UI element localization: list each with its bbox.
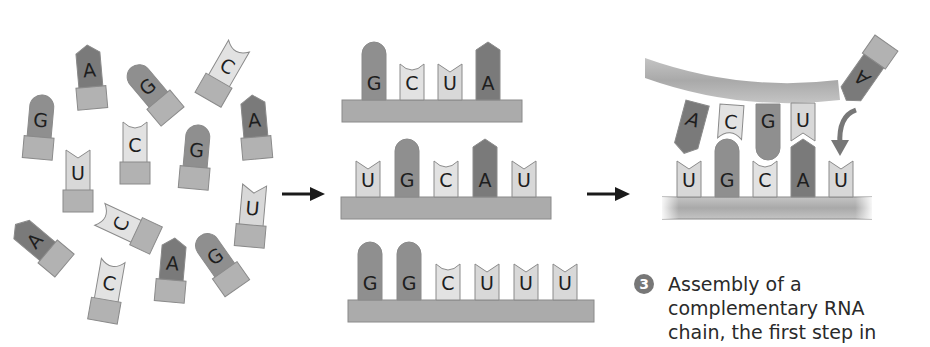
template-strand-top — [645, 58, 840, 103]
paired-base-U: U — [791, 103, 815, 141]
nucleotide-A: A — [6, 213, 74, 277]
svg-text:C: C — [405, 72, 418, 94]
svg-text:U: U — [796, 109, 810, 131]
rna-strands-panel: GCUAUGCAUGGCUUU — [341, 42, 594, 322]
svg-text:A: A — [482, 72, 495, 94]
base-U: U — [475, 264, 499, 300]
curved-arrow-icon — [831, 110, 856, 156]
caption-line-2: complementary RNA — [668, 296, 928, 320]
step-caption: 3 Assembly of a complementary RNA chain,… — [668, 272, 928, 344]
base-G: G — [395, 139, 419, 197]
base-U: U — [438, 64, 462, 100]
svg-text:U: U — [517, 169, 531, 191]
svg-text:C: C — [723, 110, 738, 133]
nucleotide-C: C — [88, 258, 128, 324]
paired-base-A: A — [673, 100, 710, 156]
svg-text:C: C — [128, 134, 141, 156]
svg-text:G: G — [32, 108, 49, 131]
svg-text:A: A — [82, 59, 97, 82]
rna-strand: UGCAU — [341, 139, 551, 219]
base-G: G — [358, 242, 382, 300]
base-U: U — [512, 161, 536, 197]
base-U: U — [514, 264, 538, 300]
base-C: C — [434, 161, 458, 197]
svg-text:A: A — [247, 109, 262, 132]
template-base-U: U — [677, 161, 701, 197]
svg-text:U: U — [245, 196, 261, 219]
template-base-A: A — [791, 139, 815, 197]
incoming-nucleotide-A: A — [835, 35, 898, 108]
base-C: C — [400, 64, 424, 100]
paired-base-C: C — [718, 104, 744, 140]
nucleotide-U: U — [234, 184, 269, 248]
template-base-U: U — [829, 161, 853, 197]
svg-text:A: A — [479, 169, 492, 191]
base-G: G — [362, 42, 386, 100]
arrow-right-icon — [587, 187, 630, 201]
svg-text:G: G — [402, 272, 417, 294]
svg-text:U: U — [480, 272, 494, 294]
svg-text:U: U — [519, 272, 533, 294]
svg-text:G: G — [400, 169, 415, 191]
svg-text:C: C — [758, 169, 771, 191]
svg-text:U: U — [834, 169, 848, 191]
nucleotide-C: C — [195, 39, 252, 108]
svg-text:U: U — [558, 272, 572, 294]
nucleotide-C: C — [120, 122, 150, 184]
rna-strand: GCUA — [342, 42, 522, 122]
base-C: C — [436, 264, 460, 300]
template-base-C: C — [753, 161, 777, 197]
arrow-right-icon — [282, 187, 325, 201]
template-base-G: G — [715, 139, 739, 197]
svg-text:U: U — [682, 169, 696, 191]
svg-text:U: U — [443, 72, 457, 94]
nucleotide-U: U — [63, 150, 93, 212]
nucleotide-C: C — [93, 201, 162, 254]
nucleotide-G: G — [178, 124, 213, 190]
svg-text:A: A — [165, 252, 180, 275]
step-number-badge: 3 — [634, 274, 654, 294]
svg-text:A: A — [797, 169, 810, 191]
caption-line-1: Assembly of a — [668, 272, 928, 296]
base-A: A — [473, 139, 497, 197]
rna-strand: GGCUUU — [348, 242, 594, 322]
nucleotide-G: G — [22, 94, 57, 160]
caption-line-3: chain, the first step in — [668, 320, 928, 344]
svg-text:G: G — [188, 138, 205, 161]
nucleotide-G: G — [120, 58, 184, 126]
svg-text:G: G — [367, 72, 382, 94]
svg-text:U: U — [71, 162, 85, 184]
base-A: A — [476, 42, 500, 100]
svg-text:G: G — [363, 272, 378, 294]
svg-text:U: U — [361, 169, 375, 191]
svg-text:C: C — [439, 169, 452, 191]
svg-text:G: G — [761, 110, 776, 132]
nucleotide-A: A — [237, 94, 272, 160]
nucleotide-A: A — [72, 44, 107, 110]
nucleotide-A: A — [154, 237, 189, 303]
complementary-assembly-panel: UGCAUACGUA — [645, 35, 898, 219]
svg-text:G: G — [720, 169, 735, 191]
base-U: U — [356, 161, 380, 197]
paired-base-G: G — [756, 104, 780, 160]
base-G: G — [397, 242, 421, 300]
base-U: U — [553, 264, 577, 300]
svg-text:C: C — [441, 272, 454, 294]
free-nucleotides-panel: AGCGACUGUCAGCA — [6, 39, 273, 325]
